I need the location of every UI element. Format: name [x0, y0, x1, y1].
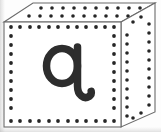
right-face — [121, 3, 155, 127]
cube-illustration — [0, 0, 161, 132]
front-face — [4, 22, 121, 127]
image-canvas: A white cubic alphabet block drawn in ob… — [0, 0, 161, 132]
